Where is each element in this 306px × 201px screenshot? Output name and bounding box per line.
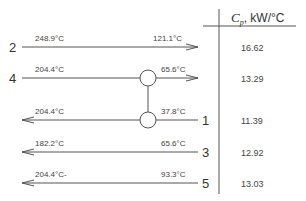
stream-1-line — [22, 117, 198, 123]
stream-3-left-temp: 182.2°C — [35, 140, 64, 148]
stream-3-cp: 12.92 — [241, 149, 264, 158]
stream-1-id: 1 — [202, 114, 209, 127]
stream-5-right-temp: 93.3°C — [161, 171, 186, 179]
stream-4-cp: 13.29 — [241, 75, 264, 84]
exchanger-circle-icon — [140, 112, 156, 128]
stream-5-id: 5 — [202, 177, 209, 190]
stream-1-right-temp: 37.8°C — [161, 108, 186, 116]
stream-3-line — [22, 149, 198, 155]
stream-1-left-temp: 204.4°C — [35, 108, 64, 116]
cp-column-header: Cp, kW/°C — [231, 10, 284, 27]
stream-2-id: 2 — [9, 41, 16, 54]
stream-4-id: 4 — [9, 72, 16, 85]
stream-5-line — [22, 180, 198, 186]
stream-4-left-temp: 204.4°C — [35, 66, 64, 74]
stream-5-left-temp: 204.4°C- — [35, 171, 67, 179]
stream-2-line — [22, 44, 198, 50]
stream-3-id: 3 — [202, 146, 209, 159]
stream-1-cp: 11.39 — [241, 117, 263, 126]
exchanger-circle-icon — [140, 70, 156, 86]
stream-5-cp: 13.03 — [241, 180, 264, 189]
heat-exchanger-match — [140, 70, 156, 128]
stream-3-right-temp: 65.6°C — [161, 140, 186, 148]
stream-2-left-temp: 248.9°C — [35, 35, 64, 43]
stream-4-line — [22, 75, 198, 81]
cp-unit: , kW/°C — [244, 11, 285, 25]
stream-4-right-temp: 65.6°C — [161, 66, 186, 74]
stream-2-cp: 16.62 — [241, 44, 264, 53]
stream-2-right-temp: 121.1°C — [153, 35, 182, 43]
cp-symbol: C — [231, 10, 240, 25]
